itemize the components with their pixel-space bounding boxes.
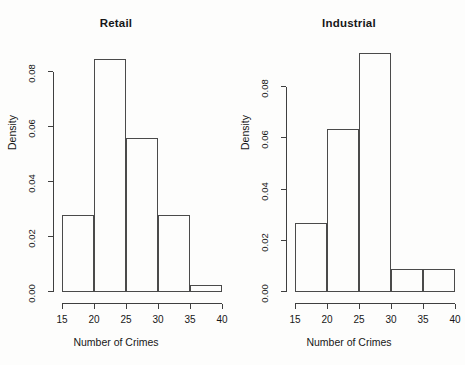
histogram-bar — [391, 269, 423, 292]
chart-panel-retail: Retail Density 0.000.020.040.060.0815202… — [0, 0, 232, 365]
plot-area-retail: 0.000.020.040.060.08152025303540 — [62, 45, 222, 292]
x-axis-label-industrial: Number of Crimes — [233, 336, 465, 348]
x-tick-label-retail: 15 — [50, 314, 74, 325]
x-tick-label-retail: 35 — [178, 314, 202, 325]
y-tick-label-retail: 0.04 — [26, 169, 37, 199]
y-tick-retail — [48, 236, 53, 237]
x-axis-line-retail — [62, 303, 222, 304]
histogram-figure: Retail Density 0.000.020.040.060.0815202… — [0, 0, 465, 365]
x-tick-industrial — [455, 304, 456, 309]
x-tick-label-industrial: 25 — [347, 314, 371, 325]
x-tick-label-retail: 40 — [210, 314, 234, 325]
y-tick-label-industrial: 0.02 — [259, 227, 270, 257]
x-tick-retail — [62, 304, 63, 309]
x-tick-industrial — [327, 304, 328, 309]
chart-title-industrial: Industrial — [233, 17, 465, 29]
histogram-bar — [423, 269, 455, 292]
y-tick-label-retail: 0.02 — [26, 224, 37, 254]
y-tick-retail — [48, 291, 53, 292]
y-tick-retail — [48, 126, 53, 127]
x-tick-retail — [126, 304, 127, 309]
y-tick-label-industrial: 0.08 — [259, 74, 270, 104]
y-tick-label-industrial: 0.06 — [259, 125, 270, 155]
chart-panel-industrial: Industrial Density 0.000.020.040.060.081… — [233, 0, 465, 365]
y-axis-label-retail: Density — [6, 115, 18, 150]
x-tick-label-industrial: 15 — [283, 314, 307, 325]
y-tick-industrial — [281, 291, 286, 292]
x-tick-industrial — [359, 304, 360, 309]
histogram-bar — [295, 223, 327, 292]
plot-inner-retail: 0.000.020.040.060.08152025303540 — [62, 45, 222, 292]
histogram-bar — [190, 285, 222, 292]
plot-area-industrial: 0.000.020.040.060.08152025303540 — [295, 45, 455, 292]
y-axis-label-industrial: Density — [239, 115, 251, 150]
histogram-bar — [62, 215, 94, 292]
y-tick-label-retail: 0.08 — [26, 59, 37, 89]
x-tick-label-industrial: 30 — [379, 314, 403, 325]
x-tick-label-industrial: 20 — [315, 314, 339, 325]
y-tick-label-industrial: 0.00 — [259, 279, 270, 309]
plot-inner-industrial: 0.000.020.040.060.08152025303540 — [295, 45, 455, 292]
x-tick-label-industrial: 40 — [443, 314, 465, 325]
y-tick-label-industrial: 0.04 — [259, 176, 270, 206]
y-tick-industrial — [281, 189, 286, 190]
histogram-bar — [327, 129, 359, 292]
x-tick-retail — [94, 304, 95, 309]
histogram-bar — [126, 138, 158, 292]
x-tick-label-retail: 20 — [82, 314, 106, 325]
y-axis-line-retail — [53, 72, 54, 292]
y-tick-label-retail: 0.06 — [26, 114, 37, 144]
y-tick-industrial — [281, 137, 286, 138]
histogram-bar — [94, 59, 126, 292]
y-tick-label-retail: 0.00 — [26, 279, 37, 309]
x-tick-industrial — [423, 304, 424, 309]
y-axis-line-industrial — [286, 87, 287, 292]
y-tick-industrial — [281, 240, 286, 241]
x-tick-label-retail: 25 — [114, 314, 138, 325]
x-tick-industrial — [295, 304, 296, 309]
x-tick-label-retail: 30 — [146, 314, 170, 325]
x-tick-retail — [158, 304, 159, 309]
y-tick-retail — [48, 71, 53, 72]
x-axis-line-industrial — [295, 303, 455, 304]
x-tick-retail — [222, 304, 223, 309]
x-tick-label-industrial: 35 — [411, 314, 435, 325]
histogram-bar — [158, 215, 190, 292]
chart-title-retail: Retail — [0, 17, 232, 29]
x-tick-retail — [190, 304, 191, 309]
x-tick-industrial — [391, 304, 392, 309]
y-tick-industrial — [281, 86, 286, 87]
y-tick-retail — [48, 181, 53, 182]
histogram-bar — [359, 53, 391, 292]
x-axis-label-retail: Number of Crimes — [0, 336, 232, 348]
